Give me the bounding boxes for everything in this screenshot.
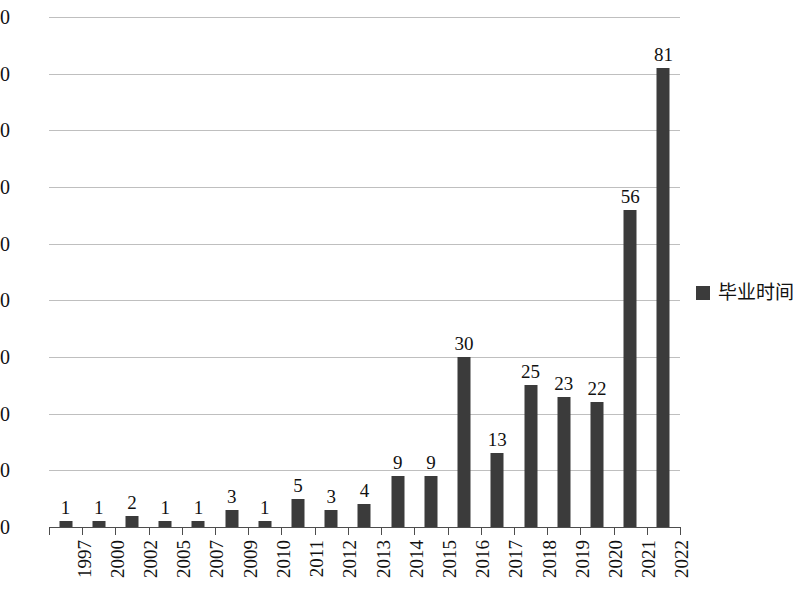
chart-legend: 毕业时间 bbox=[696, 283, 794, 302]
x-axis-label: 2011 bbox=[307, 540, 326, 577]
bar-value-label: 1 bbox=[94, 498, 104, 517]
y-tick-label: 0 bbox=[0, 517, 10, 537]
x-axis-label: 2002 bbox=[141, 540, 160, 578]
x-tick bbox=[182, 527, 183, 535]
bar-value-label: 3 bbox=[227, 487, 237, 506]
bar-value-label: 3 bbox=[327, 487, 337, 506]
x-axis-label: 2010 bbox=[274, 540, 293, 578]
y-tick-label: 70 bbox=[0, 120, 10, 140]
x-tick bbox=[481, 527, 482, 535]
x-tick bbox=[414, 527, 415, 535]
x-axis-label: 2013 bbox=[374, 540, 393, 578]
bar-slot: 1 bbox=[182, 17, 215, 527]
x-axis-label: 2018 bbox=[540, 540, 559, 578]
bar-slot: 2 bbox=[115, 17, 148, 527]
bar-value-label: 22 bbox=[587, 379, 606, 398]
x-tick bbox=[281, 527, 282, 535]
bar-value-label: 2 bbox=[127, 493, 137, 512]
x-axis-label: 2012 bbox=[340, 540, 359, 578]
x-tick bbox=[82, 527, 83, 535]
y-tick-label: 20 bbox=[0, 404, 10, 424]
x-axis-label: 1997 bbox=[75, 540, 94, 578]
bar-slot: 5 bbox=[281, 17, 314, 527]
x-tick bbox=[514, 527, 515, 535]
x-axis-label: 2000 bbox=[108, 540, 127, 578]
bar-slot: 1 bbox=[248, 17, 281, 527]
bar[interactable] bbox=[524, 385, 537, 527]
x-tick bbox=[647, 527, 648, 535]
bar-value-label: 9 bbox=[426, 453, 436, 472]
bar-slot: 1 bbox=[149, 17, 182, 527]
bar-value-label: 25 bbox=[521, 362, 540, 381]
x-axis-label: 2016 bbox=[473, 540, 492, 578]
x-axis-label: 2020 bbox=[606, 540, 625, 578]
bar[interactable] bbox=[126, 516, 139, 527]
bar[interactable] bbox=[557, 397, 570, 527]
x-tick bbox=[448, 527, 449, 535]
x-tick bbox=[248, 527, 249, 535]
x-axis: 1997200020022005200720092010201120122013… bbox=[49, 527, 680, 602]
y-tick-label: 30 bbox=[0, 347, 10, 367]
bar[interactable] bbox=[225, 510, 238, 527]
x-tick bbox=[149, 527, 150, 535]
x-axis-label: 2022 bbox=[672, 540, 691, 578]
x-axis-label: 2014 bbox=[407, 540, 426, 578]
x-tick bbox=[115, 527, 116, 535]
bar-slot: 3 bbox=[315, 17, 348, 527]
bar[interactable] bbox=[358, 504, 371, 527]
plot-area: 11211315349930132523225681 bbox=[49, 17, 680, 527]
bar-value-label: 13 bbox=[488, 430, 507, 449]
bar-value-label: 1 bbox=[61, 498, 71, 517]
x-axis-label: 2017 bbox=[506, 540, 525, 578]
bar-slot: 25 bbox=[514, 17, 547, 527]
x-tick bbox=[315, 527, 316, 535]
bar-slot: 9 bbox=[381, 17, 414, 527]
x-tick bbox=[614, 527, 615, 535]
bar-value-label: 30 bbox=[455, 334, 474, 353]
bar-value-label: 5 bbox=[293, 476, 303, 495]
bar-value-label: 1 bbox=[160, 498, 170, 517]
y-tick-label: 10 bbox=[0, 460, 10, 480]
bar[interactable] bbox=[325, 510, 338, 527]
bar-slot: 30 bbox=[448, 17, 481, 527]
bar-slot: 13 bbox=[481, 17, 514, 527]
bar-slot: 9 bbox=[414, 17, 447, 527]
bar-value-label: 1 bbox=[194, 498, 204, 517]
bar-value-label: 1 bbox=[260, 498, 270, 517]
bar[interactable] bbox=[391, 476, 404, 527]
y-tick-label: 50 bbox=[0, 234, 10, 254]
legend-label: 毕业时间 bbox=[718, 283, 794, 302]
bar[interactable] bbox=[624, 210, 637, 527]
x-tick bbox=[348, 527, 349, 535]
bar-slot: 81 bbox=[647, 17, 680, 527]
y-tick-label: 80 bbox=[0, 64, 10, 84]
x-axis-label: 2009 bbox=[241, 540, 260, 578]
bar-value-label: 56 bbox=[621, 187, 640, 206]
bar-value-label: 81 bbox=[654, 45, 673, 64]
y-tick-label: 40 bbox=[0, 290, 10, 310]
bar[interactable] bbox=[657, 68, 670, 527]
bar[interactable] bbox=[292, 499, 305, 527]
y-axis: 0102030405060708090 bbox=[0, 0, 49, 602]
x-axis-label: 2015 bbox=[440, 540, 459, 578]
y-tick-label: 90 bbox=[0, 7, 10, 27]
x-axis-label: 2005 bbox=[174, 540, 193, 578]
bar[interactable] bbox=[491, 453, 504, 527]
bar-value-label: 4 bbox=[360, 481, 370, 500]
bar[interactable] bbox=[424, 476, 437, 527]
bar-series: 11211315349930132523225681 bbox=[49, 17, 680, 527]
chart-page: 0102030405060708090 11211315349930132523… bbox=[0, 0, 801, 602]
x-tick bbox=[580, 527, 581, 535]
x-tick bbox=[215, 527, 216, 535]
bar-slot: 1 bbox=[49, 17, 82, 527]
bar-slot: 23 bbox=[547, 17, 580, 527]
x-axis-label: 2021 bbox=[639, 540, 658, 578]
bar-value-label: 9 bbox=[393, 453, 403, 472]
x-tick bbox=[49, 527, 50, 535]
y-tick-label: 60 bbox=[0, 177, 10, 197]
bar[interactable] bbox=[590, 402, 603, 527]
bar-slot: 4 bbox=[348, 17, 381, 527]
bar-slot: 1 bbox=[82, 17, 115, 527]
legend-swatch-icon bbox=[696, 286, 710, 300]
bar[interactable] bbox=[458, 357, 471, 527]
